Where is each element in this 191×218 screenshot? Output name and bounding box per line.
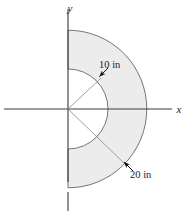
outer-radius-label: 20 in [130, 169, 152, 180]
x-axis-label: x [176, 103, 182, 115]
inner-radius-label: 10 in [99, 59, 121, 70]
leader-line-inner-radius [68, 78, 101, 109]
y-axis-label: y [67, 2, 73, 14]
annulus-diagram: x y 10 in 20 in [0, 0, 191, 218]
figure-container: x y 10 in 20 in [0, 0, 191, 218]
